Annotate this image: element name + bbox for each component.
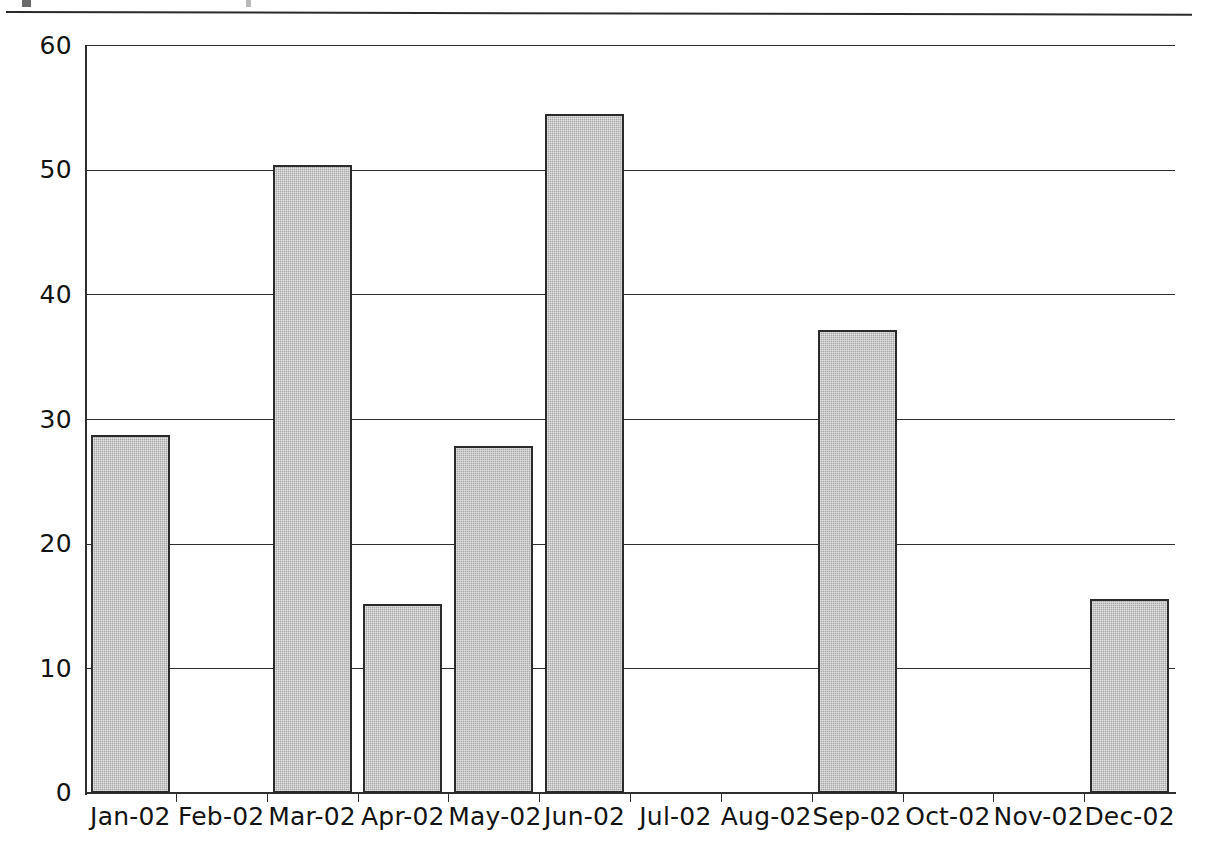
x-tick-mark [721,793,722,802]
gridline-60 [85,45,1175,46]
gridline-50 [85,170,1175,171]
x-tick-mark [1084,793,1085,802]
x-tick-label-apr: Apr-02 [358,802,449,832]
x-tick-mark [539,793,540,802]
x-tick-mark [630,793,631,802]
x-tick-mark [358,793,359,802]
x-tick-label-oct: Oct-02 [903,802,994,832]
plot-area [85,45,1175,793]
x-tick-label-jan: Jan-02 [85,802,176,832]
x-tick-mark [993,793,994,802]
x-tick-mark [267,793,268,802]
bar-may-02[interactable] [454,446,533,793]
y-tick-label-50: 50 [12,157,72,182]
bar-chart: 60 50 40 30 20 10 0 J [0,0,1210,858]
bar-jan-02[interactable] [91,435,170,793]
x-tick-label-jul: Jul-02 [630,802,721,832]
x-tick-mark [812,793,813,802]
gridline-20 [85,544,1175,545]
bar-nov-02 [0,0,1,1]
y-tick-label-40: 40 [12,282,72,307]
bar-aug-02 [0,0,1,1]
gridline-40 [85,294,1175,295]
y-tick-label-30: 30 [12,407,72,432]
x-tick-label-feb: Feb-02 [176,802,267,832]
bar-oct-02 [0,0,1,1]
bar-apr-02[interactable] [363,604,442,793]
gridline-30 [85,419,1175,420]
x-tick-label-mar: Mar-02 [267,802,358,832]
bar-mar-02[interactable] [273,165,352,793]
y-axis-line [85,45,87,795]
x-tick-label-may: May-02 [448,802,539,832]
x-tick-mark [448,793,449,802]
x-tick-mark [903,793,904,802]
gridline-10 [85,668,1175,669]
bar-jul-02 [0,0,1,1]
y-tick-label-20: 20 [12,531,72,556]
x-tick-label-aug: Aug-02 [721,802,812,832]
y-tick-label-10: 10 [12,656,72,681]
y-tick-label-0: 0 [12,780,72,805]
bar-sep-02[interactable] [818,330,897,793]
x-tick-mark [176,793,177,802]
figure-page: 60 50 40 30 20 10 0 J [0,0,1210,858]
y-tick-label-60: 60 [12,33,72,58]
x-tick-label-jun: Jun-02 [539,802,630,832]
bar-dec-02[interactable] [1090,599,1169,793]
x-tick-label-nov: Nov-02 [993,802,1084,832]
bar-feb-02 [0,0,1,1]
x-tick-label-sep: Sep-02 [812,802,903,832]
bar-jun-02[interactable] [545,114,624,793]
x-tick-label-dec: Dec-02 [1084,802,1175,832]
